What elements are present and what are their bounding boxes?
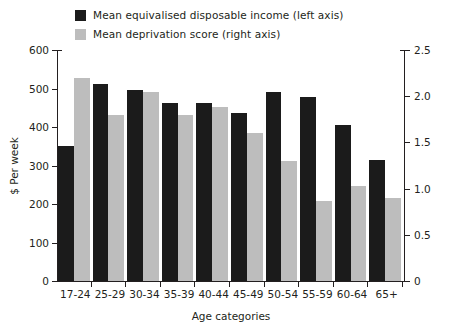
bar-deprivation [316, 201, 332, 281]
square-swatch-dark-icon [75, 10, 86, 21]
y-axis-left-tick [52, 281, 57, 282]
y-axis-right-line [404, 50, 405, 282]
bar-income [300, 97, 316, 281]
bar-group [369, 50, 404, 281]
x-axis-line [57, 281, 405, 282]
y-axis-right-tick [405, 96, 410, 97]
bar-income [93, 84, 109, 282]
bar-income [231, 113, 247, 281]
legend-label-deprivation: Mean deprivation score (right axis) [93, 29, 280, 40]
y-axis-right-tick [405, 189, 410, 190]
square-swatch-grey-icon [75, 29, 86, 40]
y-axis-left-tick [52, 243, 57, 244]
bar-deprivation [385, 198, 401, 281]
y-axis-right-tick-label: 1.0 [414, 183, 431, 195]
x-axis-tick-label: 60-64 [335, 288, 370, 300]
plot-area: 0100200300400500600 00.51.01.52.02.5 [57, 50, 405, 282]
y-axis-right-tick-label: 2.0 [414, 90, 431, 102]
x-axis-title: Age categories [57, 310, 405, 322]
x-axis-tick [160, 282, 161, 287]
y-axis-left-tick [52, 166, 57, 167]
bar-deprivation [178, 115, 194, 281]
y-axis-left-tick [52, 127, 57, 128]
bar-deprivation [281, 161, 297, 281]
x-axis-tick [298, 282, 299, 287]
y-axis-right-tick [405, 50, 410, 51]
y-axis-right-tick [405, 281, 410, 282]
bar-group [127, 50, 162, 281]
bar-group [58, 50, 93, 281]
y-axis-right-tick-label: 1.5 [414, 136, 431, 148]
y-axis-left-tick [52, 50, 57, 51]
x-axis-labels: 17-2425-2930-3435-3940-4445-4950-5455-59… [58, 288, 404, 300]
bar-deprivation [143, 92, 159, 281]
bar-income [58, 146, 74, 281]
bar-deprivation [212, 107, 228, 281]
y-axis-left-tick-label: 0 [42, 275, 49, 287]
bar-group [196, 50, 231, 281]
x-axis-tick [194, 282, 195, 287]
y-axis-left-tick-label: 600 [29, 44, 49, 56]
y-axis-left-tick-label: 300 [29, 160, 49, 172]
x-axis-tick [91, 282, 92, 287]
y-axis-right-tick [405, 142, 410, 143]
y-axis-left-title: $ Per week [8, 137, 20, 195]
y-axis-right-tick [405, 235, 410, 236]
bar-income [127, 90, 143, 281]
bar-deprivation [351, 186, 367, 281]
x-axis-tick [264, 282, 265, 287]
y-axis-right-tick-label: 2.5 [414, 44, 431, 56]
bar-deprivation [247, 133, 263, 281]
x-axis-tick-label: 40-44 [196, 288, 231, 300]
bar-group [231, 50, 266, 281]
x-axis-tick-label: 45-49 [231, 288, 266, 300]
chart-legend: Mean equivalised disposable income (left… [75, 8, 343, 46]
chart-figure: Mean equivalised disposable income (left… [0, 0, 461, 331]
y-axis-left-tick [52, 89, 57, 90]
x-axis-tick-label: 65+ [369, 288, 404, 300]
bar-deprivation [108, 115, 124, 281]
legend-item-deprivation: Mean deprivation score (right axis) [75, 27, 343, 42]
x-axis-tick-label: 35-39 [162, 288, 197, 300]
x-axis-tick [125, 282, 126, 287]
x-axis-tick-label: 50-54 [266, 288, 301, 300]
bar-group [93, 50, 128, 281]
x-axis-tick [229, 282, 230, 287]
x-axis-tick [333, 282, 334, 287]
bar-income [196, 103, 212, 281]
bar-groups [58, 50, 404, 281]
y-axis-left-tick-label: 200 [29, 198, 49, 210]
bar-income [162, 103, 178, 281]
y-axis-left-tick-label: 400 [29, 121, 49, 133]
bar-deprivation [74, 78, 90, 281]
y-axis-left-tick [52, 204, 57, 205]
y-axis-right-tick-label: 0.5 [414, 229, 431, 241]
bar-group [335, 50, 370, 281]
x-axis-tick-label: 30-34 [127, 288, 162, 300]
x-axis-tick [367, 282, 368, 287]
bar-group [266, 50, 301, 281]
x-axis-tick-label: 55-59 [300, 288, 335, 300]
legend-label-income: Mean equivalised disposable income (left… [93, 10, 343, 21]
y-axis-right-tick-label: 0 [414, 275, 421, 287]
bar-income [369, 160, 385, 281]
bar-income [266, 92, 282, 281]
x-axis-tick-label: 25-29 [93, 288, 128, 300]
y-axis-left-tick-label: 100 [29, 237, 49, 249]
bar-group [162, 50, 197, 281]
x-axis-tick-label: 17-24 [58, 288, 93, 300]
legend-item-income: Mean equivalised disposable income (left… [75, 8, 343, 23]
bar-group [300, 50, 335, 281]
bar-income [335, 125, 351, 281]
x-axis-tick [402, 282, 403, 287]
y-axis-left-tick-label: 500 [29, 83, 49, 95]
